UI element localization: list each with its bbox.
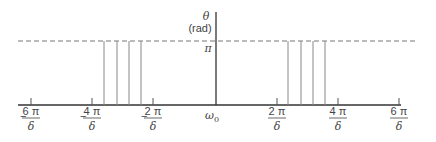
tick-label-neg6: − 6 π δ [20, 105, 40, 133]
svg-text:δ: δ [335, 120, 342, 133]
phase-diagram: θ (rad) π ω0 − 6 π δ − 4 π δ − 2 π δ 2 π… [0, 0, 436, 142]
origin-label: ω0 [205, 109, 219, 124]
svg-text:2 π: 2 π [145, 105, 162, 117]
svg-text:δ: δ [150, 120, 157, 133]
svg-text:δ: δ [396, 120, 403, 133]
tick-label-pos6: 6 π δ [390, 105, 408, 133]
tick-label-pos2: 2 π δ [268, 105, 286, 133]
tick-label-neg2: − 2 π δ [141, 105, 162, 133]
tick-label-neg4: − 4 π δ [80, 105, 101, 133]
y-axis-unit: (rad) [188, 22, 211, 34]
x-ticks [31, 98, 399, 105]
impulses-left [104, 41, 141, 105]
svg-text:δ: δ [89, 120, 96, 133]
svg-text:2 π: 2 π [269, 105, 286, 117]
pi-level-label: π [203, 42, 212, 55]
tick-label-pos4: 4 π δ [329, 105, 347, 133]
svg-text:δ: δ [274, 120, 281, 133]
svg-text:6 π: 6 π [23, 105, 40, 117]
svg-text:δ: δ [28, 120, 35, 133]
svg-text:6 π: 6 π [391, 105, 408, 117]
svg-text:4 π: 4 π [330, 105, 347, 117]
impulses-right [288, 41, 325, 105]
svg-text:4 π: 4 π [84, 105, 101, 117]
